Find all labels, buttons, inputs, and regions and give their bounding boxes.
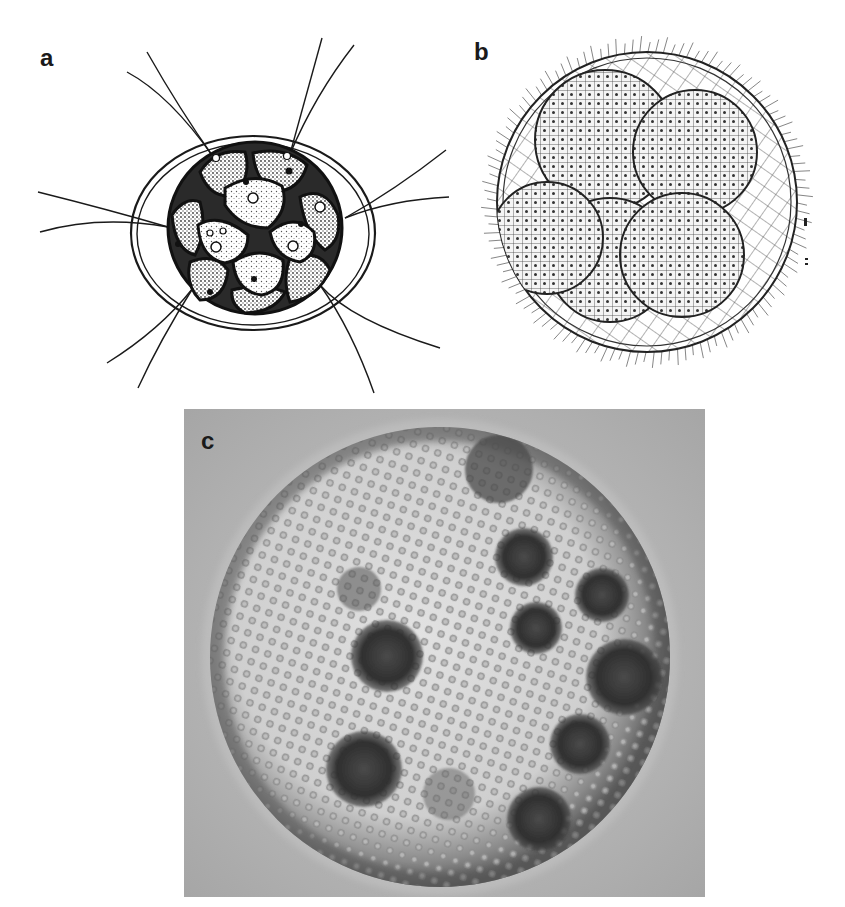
panel-label-b: b: [474, 40, 489, 64]
daughter-colony: [575, 568, 629, 622]
cell-colony: [168, 142, 342, 314]
panel-c: c: [184, 409, 705, 897]
daughter-colony: [620, 193, 744, 317]
daughter-colony: [507, 787, 571, 851]
daughter-colony: [326, 731, 402, 807]
panel-label-c: c: [201, 429, 214, 453]
daughter-colony: [586, 639, 662, 715]
colony-drawing-b: [450, 0, 845, 400]
daughter-colony: [465, 435, 533, 503]
panel-a: a: [0, 0, 450, 400]
colony-drawing-a: [0, 0, 450, 400]
micrograph-c: [184, 409, 705, 897]
panel-label-a: a: [40, 46, 53, 70]
daughter-colony: [510, 602, 562, 654]
daughter-colony: [351, 620, 423, 692]
daughter-colony: [495, 528, 553, 586]
stray-marks: [804, 218, 808, 265]
panel-b: b: [450, 0, 845, 400]
daughter-colony: [550, 714, 610, 774]
daughter-colony: [491, 182, 603, 294]
